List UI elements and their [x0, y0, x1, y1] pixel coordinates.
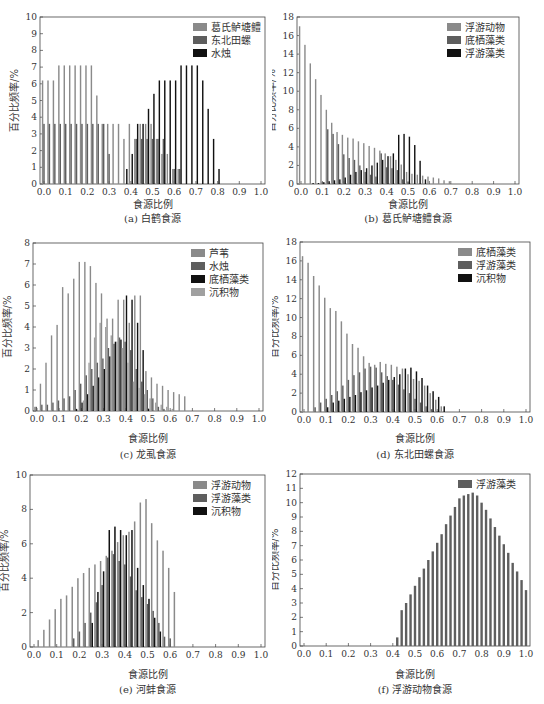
- x-tick-label: 0.7: [444, 187, 459, 196]
- bar-沉积物: [388, 380, 389, 412]
- bar-浮游动物: [168, 568, 169, 647]
- bar-底栖藻类: [126, 296, 127, 412]
- y-tick-label: 6: [291, 555, 297, 565]
- x-axis-label-f: 食源比例: [300, 666, 530, 681]
- bar-底栖藻类: [397, 170, 398, 184]
- bar-底栖藻类: [338, 144, 339, 184]
- x-tick-label: 0.5: [145, 187, 160, 196]
- y-tick-label: 4: [24, 322, 30, 332]
- bar-芦苇: [40, 384, 41, 411]
- caption-c: (c) 龙虱食源: [33, 446, 263, 461]
- bar-葛氏鲈塘鳢: [64, 65, 65, 184]
- bar-底栖藻类: [115, 342, 116, 411]
- bar-浮游藻类: [392, 380, 393, 412]
- bar-芦苇: [134, 296, 135, 412]
- chart-panel-d: 0246810121416180.00.10.20.30.40.50.60.70…: [272, 230, 544, 426]
- bar-水烛: [36, 407, 37, 411]
- x-tick-label: 0.8: [465, 187, 480, 196]
- x-tick-label: 0.6: [163, 414, 178, 424]
- bar-东北田螺: [173, 169, 174, 184]
- bar-浮游动物: [358, 141, 359, 184]
- bar-葛氏鲈塘鳢: [96, 95, 97, 184]
- chart-panel-c: 0123456780.00.10.20.30.40.50.60.70.80.91…: [0, 230, 272, 426]
- x-tick-label: 0.2: [72, 650, 86, 660]
- bar-沉积物: [114, 527, 115, 647]
- y-tick-label: 7: [24, 259, 30, 269]
- bar-浮游动物: [368, 146, 369, 184]
- bar-葛氏鲈塘鳢: [150, 124, 151, 184]
- bar-浮游藻类: [480, 503, 482, 646]
- bar-葛氏鲈塘鳢: [107, 124, 108, 184]
- bar-底栖藻类: [385, 364, 386, 412]
- bar-底栖藻类: [307, 263, 308, 412]
- bar-浮游藻类: [494, 527, 496, 646]
- bar-沉积物: [83, 401, 84, 412]
- bar-东北田螺: [152, 139, 153, 184]
- bar-沉积物: [432, 391, 433, 412]
- bar-底栖藻类: [396, 367, 397, 412]
- bar-浮游藻类: [409, 137, 410, 184]
- bar-水烛: [175, 80, 176, 184]
- y-tick-label: 10: [16, 470, 28, 480]
- bar-底栖藻类: [330, 308, 331, 412]
- bar-浮游动物: [443, 180, 444, 184]
- bar-葛氏鲈塘鳢: [167, 154, 168, 184]
- bar-葛氏鲈塘鳢: [145, 124, 146, 184]
- legend-label: 葛氏鲈塘鳢: [211, 21, 261, 33]
- bar-沉积物: [371, 387, 372, 412]
- bar-浮游动物: [60, 599, 61, 647]
- bar-葛氏鲈塘鳢: [69, 65, 70, 184]
- bar-浮游动物: [342, 135, 343, 184]
- bar-浮游藻类: [371, 165, 372, 184]
- y-tick-label: 8: [291, 331, 297, 341]
- caption-d: (d) 东北田螺食源: [300, 446, 530, 461]
- bar-东北田螺: [108, 154, 109, 184]
- bar-水烛: [153, 94, 154, 184]
- bar-东北田螺: [92, 124, 93, 184]
- bar-浮游动物: [299, 26, 300, 184]
- bar-底栖藻类: [324, 298, 325, 412]
- x-tick-label: 0.1: [319, 415, 333, 425]
- bar-底栖藻类: [407, 182, 408, 184]
- bar-浮游藻类: [425, 179, 426, 184]
- bar-底栖藻类: [341, 321, 342, 412]
- bar-浮游动物: [43, 630, 44, 647]
- bar-芦苇: [101, 293, 102, 411]
- x-tick-label: 0.6: [422, 187, 437, 196]
- bar-浮游藻类: [507, 553, 509, 646]
- bar-芦苇: [90, 266, 91, 411]
- bar-水烛: [164, 80, 165, 184]
- bar-浮游藻类: [405, 603, 407, 646]
- bar-浮游动物: [123, 535, 124, 647]
- y-tick-label: 12: [286, 294, 297, 304]
- bar-芦苇: [45, 363, 46, 411]
- bar-水烛: [147, 390, 148, 411]
- bar-芦苇: [68, 293, 69, 411]
- bar-沉积物: [154, 618, 155, 647]
- bar-浮游藻类: [425, 406, 426, 412]
- x-tick-label: 0.7: [452, 415, 467, 425]
- bar-沉积物: [148, 599, 149, 647]
- x-tick-label: 0.3: [358, 187, 373, 196]
- bar-浮游藻类: [393, 153, 394, 184]
- y-tick-label: 5: [291, 569, 297, 579]
- bar-浮游藻类: [348, 380, 349, 412]
- bar-浮游藻类: [366, 168, 367, 184]
- legend-swatch: [193, 36, 207, 44]
- bar-浮游动物: [117, 542, 118, 647]
- bar-水烛: [169, 80, 170, 184]
- x-tick-label: 0.5: [141, 414, 156, 424]
- bar-水烛: [141, 382, 142, 411]
- bar-水烛: [148, 109, 149, 184]
- bar-浮游藻类: [463, 496, 465, 647]
- bar-浮游藻类: [141, 597, 142, 647]
- bar-沉积物: [443, 406, 444, 412]
- x-tick-label: 1.0: [254, 187, 269, 196]
- bar-沉积物: [97, 592, 98, 647]
- bar-底栖藻类: [148, 409, 149, 411]
- bar-水烛: [69, 396, 70, 411]
- bar-芦苇: [145, 371, 146, 411]
- bar-芦苇: [162, 386, 163, 411]
- bar-浮游藻类: [525, 590, 527, 646]
- legend-swatch: [458, 274, 472, 282]
